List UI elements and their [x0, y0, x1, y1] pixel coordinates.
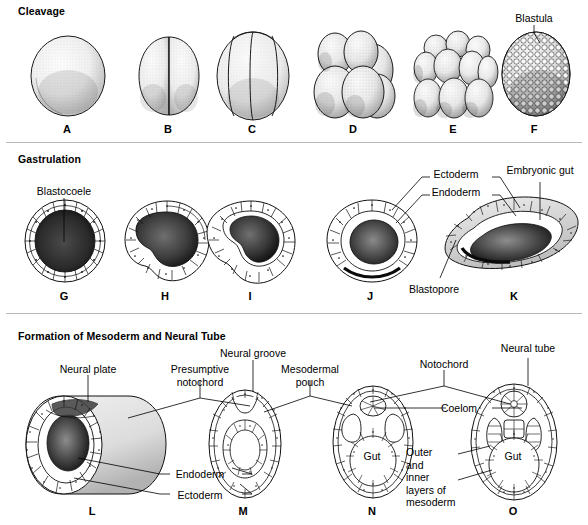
section-divider-2 [6, 313, 582, 314]
section-heading-gastrulation: Gastrulation [18, 153, 81, 165]
stage-letter-a: A [63, 123, 71, 135]
figure-stage-i-mid-gastrula [204, 198, 298, 286]
stage-letter-j: J [367, 290, 373, 302]
figure-stage-b-two-cell [131, 32, 207, 120]
stage-letter-g: G [60, 290, 69, 302]
figure-stage-d-eight-cell [311, 28, 399, 122]
leader-blastocoele [60, 198, 74, 244]
stage-letter-o: O [509, 505, 518, 517]
stage-letter-k: K [510, 290, 518, 302]
stage-letter-c: C [248, 123, 256, 135]
embryology-figure: Cleavage [0, 0, 588, 525]
figure-stage-e-morula [412, 28, 500, 122]
figure-stage-c-four-cell [212, 30, 294, 122]
figure-stage-h-early-gastrula [122, 198, 212, 284]
gastrulation-leader-lines [370, 168, 588, 293]
stage-letter-i: I [248, 290, 251, 302]
stage-letter-d: D [349, 123, 357, 135]
stage-letter-n: N [368, 505, 376, 517]
stage-letter-b: B [164, 123, 172, 135]
neurula-leader-lines [18, 340, 578, 505]
stage-letter-h: H [161, 290, 169, 302]
figure-stage-a-zygote [27, 34, 109, 118]
label-blastula: Blastula [515, 12, 552, 25]
stage-letter-l: L [89, 505, 96, 517]
label-blastocoele: Blastocoele [37, 185, 91, 198]
section-heading-cleavage: Cleavage [18, 5, 65, 17]
stage-letter-f: F [531, 123, 538, 135]
stage-letter-e: E [449, 123, 456, 135]
leader-blastula [520, 25, 550, 45]
stage-letter-m: M [238, 505, 247, 517]
section-divider-1 [6, 142, 582, 143]
